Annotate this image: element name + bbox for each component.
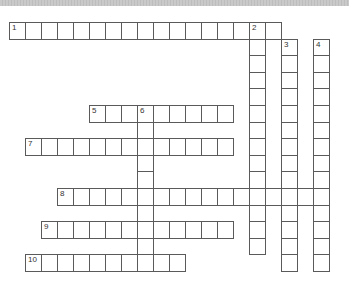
cell-letter-input[interactable] xyxy=(314,206,329,222)
cell-letter-input[interactable] xyxy=(122,106,137,122)
crossword-cell[interactable] xyxy=(313,221,330,239)
crossword-cell[interactable]: 7 xyxy=(25,138,42,156)
crossword-cell[interactable] xyxy=(313,55,330,73)
crossword-cell[interactable] xyxy=(185,22,202,40)
cell-letter-input[interactable] xyxy=(250,172,265,188)
crossword-cell[interactable] xyxy=(57,138,74,156)
cell-letter-input[interactable] xyxy=(170,189,185,205)
cell-letter-input[interactable] xyxy=(42,23,57,39)
crossword-cell[interactable] xyxy=(57,221,74,239)
cell-letter-input[interactable] xyxy=(282,156,297,172)
crossword-cell[interactable] xyxy=(217,188,234,206)
cell-letter-input[interactable] xyxy=(218,23,233,39)
crossword-cell[interactable] xyxy=(137,221,154,239)
cell-letter-input[interactable] xyxy=(90,189,105,205)
crossword-cell[interactable] xyxy=(137,22,154,40)
crossword-cell[interactable]: 9 xyxy=(41,221,58,239)
cell-letter-input[interactable] xyxy=(138,206,153,222)
crossword-cell[interactable] xyxy=(313,72,330,90)
crossword-cell[interactable] xyxy=(153,221,170,239)
cell-letter-input[interactable] xyxy=(282,89,297,105)
cell-letter-input[interactable] xyxy=(106,222,121,238)
crossword-cell[interactable] xyxy=(185,105,202,123)
cell-letter-input[interactable] xyxy=(282,123,297,139)
cell-letter-input[interactable] xyxy=(186,106,201,122)
cell-letter-input[interactable] xyxy=(282,139,297,155)
cell-letter-input[interactable] xyxy=(202,106,217,122)
crossword-cell[interactable] xyxy=(265,188,282,206)
cell-letter-input[interactable] xyxy=(250,56,265,72)
crossword-cell[interactable] xyxy=(105,221,122,239)
cell-letter-input[interactable] xyxy=(266,23,281,39)
crossword-cell[interactable] xyxy=(281,155,298,173)
crossword-cell[interactable] xyxy=(313,188,330,206)
crossword-cell[interactable]: 2 xyxy=(249,22,266,40)
crossword-cell[interactable] xyxy=(313,238,330,256)
cell-letter-input[interactable] xyxy=(26,255,41,271)
cell-letter-input[interactable] xyxy=(314,189,329,205)
crossword-cell[interactable] xyxy=(121,188,138,206)
cell-letter-input[interactable] xyxy=(314,222,329,238)
cell-letter-input[interactable] xyxy=(138,23,153,39)
crossword-cell[interactable] xyxy=(297,188,314,206)
cell-letter-input[interactable] xyxy=(106,23,121,39)
crossword-cell[interactable] xyxy=(73,254,90,272)
crossword-cell[interactable] xyxy=(249,122,266,140)
cell-letter-input[interactable] xyxy=(42,222,57,238)
cell-letter-input[interactable] xyxy=(154,222,169,238)
cell-letter-input[interactable] xyxy=(58,222,73,238)
crossword-cell[interactable] xyxy=(121,105,138,123)
cell-letter-input[interactable] xyxy=(250,239,265,255)
cell-letter-input[interactable] xyxy=(282,56,297,72)
crossword-cell[interactable] xyxy=(169,221,186,239)
crossword-cell[interactable] xyxy=(313,138,330,156)
crossword-cell[interactable] xyxy=(105,138,122,156)
cell-letter-input[interactable] xyxy=(74,222,89,238)
crossword-cell[interactable] xyxy=(217,221,234,239)
crossword-cell[interactable] xyxy=(249,238,266,256)
cell-letter-input[interactable] xyxy=(250,40,265,56)
crossword-cell[interactable]: 5 xyxy=(89,105,106,123)
crossword-cell[interactable] xyxy=(137,155,154,173)
cell-letter-input[interactable] xyxy=(218,222,233,238)
cell-letter-input[interactable] xyxy=(202,189,217,205)
cell-letter-input[interactable] xyxy=(298,189,313,205)
crossword-cell[interactable] xyxy=(137,138,154,156)
cell-letter-input[interactable] xyxy=(314,156,329,172)
crossword-cell[interactable] xyxy=(137,171,154,189)
cell-letter-input[interactable] xyxy=(138,239,153,255)
crossword-cell[interactable]: 8 xyxy=(57,188,74,206)
cell-letter-input[interactable] xyxy=(74,139,89,155)
crossword-cell[interactable] xyxy=(249,171,266,189)
crossword-cell[interactable] xyxy=(201,105,218,123)
cell-letter-input[interactable] xyxy=(250,139,265,155)
cell-letter-input[interactable] xyxy=(282,189,297,205)
crossword-cell[interactable] xyxy=(249,188,266,206)
crossword-cell[interactable] xyxy=(153,138,170,156)
crossword-cell[interactable] xyxy=(153,188,170,206)
cell-letter-input[interactable] xyxy=(106,255,121,271)
crossword-cell[interactable] xyxy=(41,138,58,156)
cell-letter-input[interactable] xyxy=(74,255,89,271)
crossword-cell[interactable] xyxy=(313,205,330,223)
cell-letter-input[interactable] xyxy=(138,189,153,205)
crossword-cell[interactable] xyxy=(217,138,234,156)
crossword-cell[interactable] xyxy=(265,22,282,40)
crossword-cell[interactable] xyxy=(121,254,138,272)
cell-letter-input[interactable] xyxy=(90,139,105,155)
crossword-cell[interactable] xyxy=(281,88,298,106)
cell-letter-input[interactable] xyxy=(250,156,265,172)
crossword-cell[interactable] xyxy=(73,138,90,156)
crossword-cell[interactable] xyxy=(89,138,106,156)
cell-letter-input[interactable] xyxy=(186,222,201,238)
crossword-cell[interactable] xyxy=(281,105,298,123)
cell-letter-input[interactable] xyxy=(138,139,153,155)
crossword-cell[interactable] xyxy=(89,221,106,239)
crossword-cell[interactable] xyxy=(169,188,186,206)
crossword-cell[interactable] xyxy=(105,105,122,123)
cell-letter-input[interactable] xyxy=(90,222,105,238)
cell-letter-input[interactable] xyxy=(138,172,153,188)
crossword-cell[interactable] xyxy=(121,138,138,156)
cell-letter-input[interactable] xyxy=(58,255,73,271)
crossword-cell[interactable] xyxy=(201,221,218,239)
